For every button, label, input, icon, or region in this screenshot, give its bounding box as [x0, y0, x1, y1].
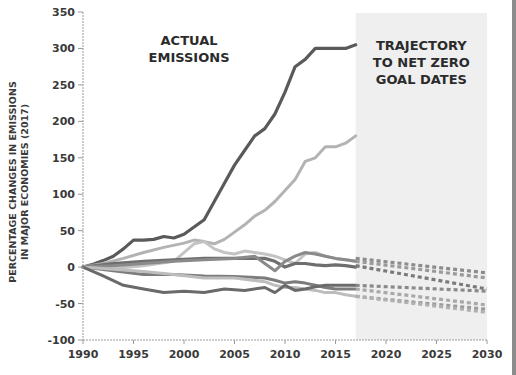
actual-emissions-label: ACTUAL: [161, 33, 218, 48]
page-edge-border: [512, 0, 516, 375]
x-tick-label: 2005: [219, 348, 250, 361]
y-tick-label: 150: [52, 152, 75, 165]
x-tick-label: 2015: [320, 348, 351, 361]
y-tick-label: 300: [52, 42, 75, 55]
x-tick-label: 2020: [371, 348, 402, 361]
chart-annotations: ACTUALEMISSIONSTRAJECTORYTO NET ZEROGOAL…: [149, 33, 470, 87]
y-tick-label: 100: [52, 188, 75, 201]
y-axis-title-line: IN MAJOR ECONOMIES (2017): [19, 104, 30, 260]
y-axis-title-line: PERCENTAGE CHANGES IN EMISSIONS: [7, 81, 18, 283]
trajectory-label: GOAL DATES: [376, 72, 467, 87]
x-tick-label: 2000: [169, 348, 200, 361]
series-7-light-down-line: [83, 267, 356, 296]
trajectory-label: TO NET ZERO: [373, 55, 470, 70]
actual-emissions-label: EMISSIONS: [149, 50, 230, 65]
series-1-dark-top-line: [83, 45, 356, 267]
y-tick-label: -100: [47, 334, 75, 347]
x-tick-label: 1990: [68, 348, 99, 361]
y-axis-title: PERCENTAGE CHANGES IN EMISSIONSIN MAJOR …: [7, 81, 30, 283]
x-tick-label: 2010: [270, 348, 301, 361]
trajectory-label: TRAJECTORY: [376, 38, 467, 53]
y-tick-label: 0: [67, 261, 75, 274]
x-tick-label: 2030: [472, 348, 503, 361]
x-tick-label: 1995: [118, 348, 149, 361]
y-tick-label: 250: [52, 79, 75, 92]
y-tick-label: 350: [52, 6, 75, 19]
y-tick-label: -50: [55, 298, 75, 311]
y-tick-label: 50: [60, 225, 76, 238]
x-tick-label: 2025: [421, 348, 452, 361]
emissions-chart: PERCENTAGE CHANGES IN EMISSIONSIN MAJOR …: [0, 0, 516, 375]
series-lines: [83, 45, 356, 296]
y-tick-label: 200: [52, 115, 75, 128]
